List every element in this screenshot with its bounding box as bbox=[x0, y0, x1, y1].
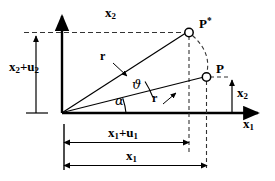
point-label-p-star: P* bbox=[199, 17, 212, 30]
dimension-label-x2-plus-u2: x2+u2 bbox=[9, 60, 39, 75]
axis-label-x2: x2 bbox=[105, 6, 116, 21]
rotation-arc-dashed bbox=[193, 36, 208, 73]
label-r-upper: r bbox=[100, 50, 105, 62]
label-angle-theta: ϑ bbox=[132, 78, 141, 91]
dimension-label-x1: x1 bbox=[126, 149, 137, 164]
axis-label-x1: x1 bbox=[243, 117, 254, 132]
dimension-label-x2-right: x2 bbox=[237, 86, 248, 101]
point-label-p: P bbox=[216, 62, 224, 75]
r-upper-leader bbox=[113, 63, 127, 76]
point-marker-p bbox=[202, 73, 210, 81]
geometry-diagram: x2 x1 x2+u2 x2 x1+u1 x1 r r α ϑ P* P bbox=[0, 0, 275, 181]
point-marker-p-star bbox=[185, 28, 193, 36]
dimension-label-x1-plus-u1: x1+u1 bbox=[108, 126, 138, 141]
label-r-lower: r bbox=[152, 92, 157, 104]
label-angle-alpha: α bbox=[115, 94, 124, 107]
r-lower-leader bbox=[163, 93, 176, 104]
